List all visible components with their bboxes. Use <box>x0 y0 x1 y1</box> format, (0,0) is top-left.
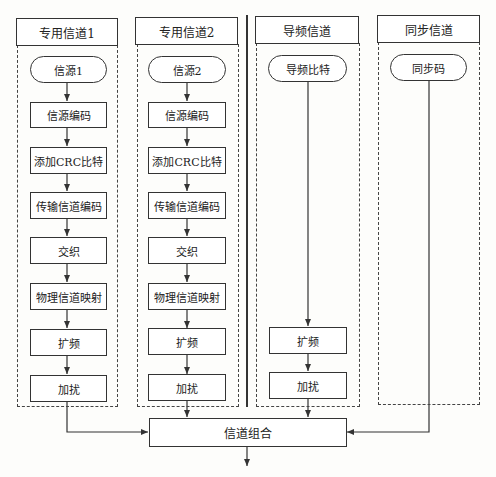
step-label: 扩频 <box>58 335 80 351</box>
channel-combiner: 信道组合 <box>149 418 347 447</box>
step-label: 加扰 <box>176 380 198 396</box>
step-interleaving: 交织 <box>30 237 107 264</box>
step-label: 物理信道映射 <box>154 289 220 305</box>
step-physical-channel-mapping: 物理信道映射 <box>148 283 226 310</box>
terminal-label: 信源1 <box>54 62 83 78</box>
step-label: 传输信道编码 <box>154 198 220 214</box>
combiner-label: 信道组合 <box>224 424 272 441</box>
step-spreading: 扩频 <box>148 328 226 355</box>
step-label: 添加CRC比特 <box>34 153 103 169</box>
step-label: 传输信道编码 <box>36 198 102 214</box>
step-label: 加扰 <box>58 381 80 397</box>
step-label: 交织 <box>176 243 198 259</box>
header-label: 专用信道1 <box>39 24 95 41</box>
step-spreading: 扩频 <box>269 327 347 354</box>
step-scrambling: 加扰 <box>148 374 226 401</box>
step-source-coding: 信源编码 <box>148 102 226 128</box>
header-pilot-channel: 导频信道 <box>255 16 359 44</box>
step-label: 信源编码 <box>165 107 209 123</box>
step-interleaving: 交织 <box>148 237 226 264</box>
header-dedicated-channel-2: 专用信道2 <box>135 17 238 45</box>
step-add-crc: 添加CRC比特 <box>30 147 107 174</box>
header-sync-channel: 同步信道 <box>377 15 480 43</box>
step-label: 加扰 <box>297 378 319 394</box>
pilot-bits-terminal: 导频比特 <box>268 55 347 82</box>
step-label: 物理信道映射 <box>36 289 102 305</box>
channel-group-separator <box>246 15 248 407</box>
step-label: 添加CRC比特 <box>152 153 221 169</box>
source-1-terminal: 信源1 <box>30 56 107 83</box>
step-add-crc: 添加CRC比特 <box>148 147 226 174</box>
terminal-label: 同步码 <box>412 60 445 76</box>
sync-code-terminal: 同步码 <box>390 54 467 81</box>
terminal-label: 导频比特 <box>286 61 330 77</box>
step-label: 扩频 <box>176 334 198 350</box>
step-source-coding: 信源编码 <box>30 102 107 128</box>
header-label: 专用信道2 <box>159 23 215 40</box>
step-scrambling: 加扰 <box>269 372 347 399</box>
step-scrambling: 加扰 <box>30 375 107 402</box>
lane-sync-channel <box>378 42 480 405</box>
step-label: 信源编码 <box>47 107 91 123</box>
header-label: 同步信道 <box>405 21 453 38</box>
terminal-label: 信源2 <box>173 62 202 78</box>
step-label: 交织 <box>58 243 80 259</box>
step-spreading: 扩频 <box>30 329 107 356</box>
step-physical-channel-mapping: 物理信道映射 <box>30 283 107 310</box>
header-label: 导频信道 <box>283 22 331 39</box>
step-transport-channel-coding: 传输信道编码 <box>148 192 226 219</box>
header-dedicated-channel-1: 专用信道1 <box>16 18 118 46</box>
step-transport-channel-coding: 传输信道编码 <box>30 192 107 219</box>
step-label: 扩频 <box>297 333 319 349</box>
source-2-terminal: 信源2 <box>148 56 226 83</box>
